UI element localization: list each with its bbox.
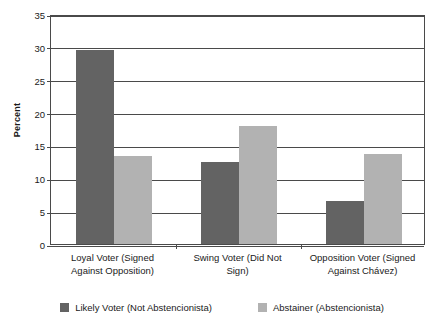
gridline — [51, 16, 424, 17]
y-tick-mark — [47, 81, 51, 82]
x-category-label-3: Opposition Voter (SignedAgainst Chávez) — [300, 252, 425, 277]
x-category-label-line: Against Chávez) — [300, 265, 425, 278]
x-tick-mark — [301, 244, 302, 249]
y-tick-label: 35 — [34, 11, 45, 21]
x-tick-mark — [176, 244, 177, 249]
x-category-label-line: Against Opposition) — [50, 265, 175, 278]
x-category-label-line: Loyal Voter (Signed — [50, 252, 175, 265]
y-tick-mark — [47, 147, 51, 148]
y-tick-label: 10 — [34, 176, 45, 186]
chart-legend: Likely Voter (Not Abstencionista)Abstain… — [0, 302, 444, 313]
y-axis-title: Percent — [12, 90, 22, 150]
y-tick-mark — [47, 246, 51, 247]
bar-chart-figure: Percent 05101520253035 Loyal Voter (Sign… — [0, 0, 444, 327]
y-tick-label: 30 — [34, 44, 45, 54]
x-category-label-2: Swing Voter (Did NotSign) — [175, 252, 300, 277]
bar-abstainer-group-2 — [239, 126, 277, 244]
bar-abstainer-group-1 — [114, 156, 152, 244]
y-tick-mark — [47, 16, 51, 17]
y-tick-label: 5 — [40, 208, 45, 218]
x-category-label-line: Opposition Voter (Signed — [300, 252, 425, 265]
legend-label: Likely Voter (Not Abstencionista) — [75, 302, 212, 313]
y-tick-label: 0 — [40, 241, 45, 251]
y-tick-mark — [47, 114, 51, 115]
x-category-label-1: Loyal Voter (SignedAgainst Opposition) — [50, 252, 175, 277]
bar-likely-voter-group-2 — [201, 162, 239, 244]
legend-entry-likely-voter: Likely Voter (Not Abstencionista) — [60, 302, 212, 313]
y-tick-mark — [47, 180, 51, 181]
y-tick-label: 15 — [34, 143, 45, 153]
y-tick-label: 20 — [34, 110, 45, 120]
plot-area: 05101520253035 — [50, 15, 425, 245]
bar-likely-voter-group-3 — [326, 201, 364, 244]
legend-label: Abstainer (Abstencionista) — [273, 302, 384, 313]
x-category-label-line: Swing Voter (Did Not — [175, 252, 300, 265]
y-tick-label: 25 — [34, 77, 45, 87]
x-category-label-line: Sign) — [175, 265, 300, 278]
legend-entry-abstainer: Abstainer (Abstencionista) — [258, 302, 384, 313]
y-tick-mark — [47, 48, 51, 49]
gridline — [51, 246, 424, 247]
bar-likely-voter-group-1 — [76, 50, 114, 245]
legend-swatch-icon — [60, 303, 69, 312]
y-tick-mark — [47, 213, 51, 214]
bar-abstainer-group-3 — [364, 154, 402, 244]
legend-swatch-icon — [258, 303, 267, 312]
